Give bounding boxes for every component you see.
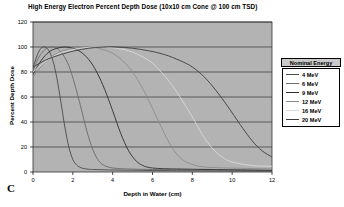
x-tick-label: 0 — [26, 177, 40, 183]
panel-letter: C — [7, 182, 15, 194]
y-tick-label: 120 — [9, 19, 27, 25]
legend-item[interactable]: 16 MeV — [283, 106, 339, 115]
x-tick-label: 12 — [265, 177, 279, 183]
y-tick-label: 0 — [9, 169, 27, 175]
y-tick-label: 100 — [9, 44, 27, 50]
legend-title: Nominal Energy — [281, 58, 341, 67]
legend-item[interactable]: 4 MeV — [283, 70, 339, 79]
x-tick-label: 8 — [185, 177, 199, 183]
legend-line-swatch — [286, 74, 299, 75]
legend-item-label: 4 MeV — [302, 72, 318, 78]
legend-item-label: 6 MeV — [302, 81, 318, 87]
x-tick-label: 4 — [106, 177, 120, 183]
legend-line-swatch — [286, 119, 299, 120]
legend-item-label: 12 MeV — [302, 99, 321, 105]
legend-item[interactable]: 9 MeV — [283, 88, 339, 97]
legend-item-label: 16 MeV — [302, 108, 321, 114]
x-tick-label: 10 — [225, 177, 239, 183]
legend-item[interactable]: 12 MeV — [283, 97, 339, 106]
y-tick-label: 80 — [9, 69, 27, 75]
legend-item-label: 9 MeV — [302, 90, 318, 96]
legend-box: 4 MeV6 MeV9 MeV12 MeV16 MeV20 MeV — [282, 68, 340, 127]
y-tick-label: 20 — [9, 144, 27, 150]
legend-item[interactable]: 6 MeV — [283, 79, 339, 88]
legend-line-swatch — [286, 110, 299, 111]
legend-line-swatch — [286, 101, 299, 102]
chart-figure: High Energy Electron Percent Depth Dose … — [0, 0, 344, 207]
y-tick-label: 60 — [9, 94, 27, 100]
legend-item-label: 20 MeV — [302, 117, 321, 123]
y-tick-label: 40 — [9, 119, 27, 125]
x-tick-label: 6 — [146, 177, 160, 183]
legend-line-swatch — [286, 92, 299, 93]
legend-item[interactable]: 20 MeV — [283, 115, 339, 124]
legend-line-swatch — [286, 83, 299, 84]
x-axis-label: Depth in Water (cm) — [0, 190, 305, 197]
x-tick-label: 2 — [66, 177, 80, 183]
